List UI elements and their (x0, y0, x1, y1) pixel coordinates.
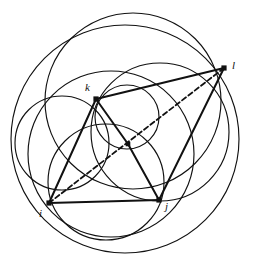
geometry-figure: ijkl (0, 0, 256, 275)
vertex-label-j: j (165, 201, 168, 212)
small-circle-through-k-center (95, 85, 159, 149)
vertex-marker-l (221, 65, 226, 70)
circles-group (11, 13, 239, 253)
vertex-label-k: k (85, 82, 90, 93)
vertex-marker-i (46, 200, 51, 205)
vertex-label-i: i (39, 208, 42, 219)
geometry-canvas (0, 0, 256, 275)
vertex-marker-center (126, 142, 131, 147)
segment-i-j (49, 200, 159, 203)
segments-group (49, 68, 224, 203)
segment-k-center (96, 99, 128, 144)
vertex-marker-k (93, 96, 98, 101)
vertex-label-l: l (232, 60, 235, 71)
segment-center-j (128, 144, 159, 200)
segment-i-k (49, 99, 96, 203)
large-upper-circle (45, 13, 221, 189)
vertex-marker-j (156, 197, 161, 202)
